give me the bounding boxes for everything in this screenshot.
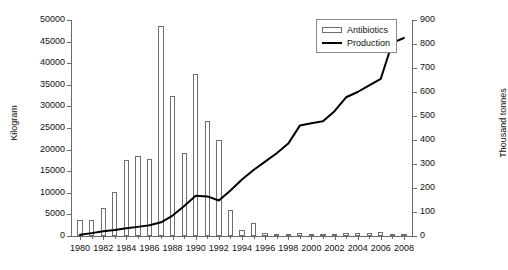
y-axis-right-tick-label: 0 (420, 231, 425, 240)
y-axis-left-tick-label: 10000 (40, 188, 65, 197)
x-axis-tick-label: 1998 (278, 243, 298, 253)
y-axis-right-tick (412, 188, 417, 189)
y-axis-right-tick (412, 140, 417, 141)
x-axis-tick-label: 1990 (186, 243, 206, 253)
y-axis-right-tick-label: 900 (420, 15, 435, 24)
x-axis-tick-label: 2008 (394, 243, 414, 253)
y-axis-right-tick (412, 236, 417, 237)
legend-item-production: Production (322, 36, 390, 49)
x-axis-tick-label: 1988 (163, 243, 183, 253)
x-axis-tick-label: 1992 (209, 243, 229, 253)
y-axis-right-tick (412, 164, 417, 165)
y-axis-right-tick (412, 44, 417, 45)
y-axis-left-tick-label: 30000 (40, 101, 65, 110)
y-axis-left-tick-label: 45000 (40, 37, 65, 46)
y-axis-right-tick-label: 500 (420, 111, 435, 120)
y-axis-right-tick (412, 68, 417, 69)
y-axis-right-tick-label: 600 (420, 87, 435, 96)
y-axis-right-tick-label: 700 (420, 63, 435, 72)
y-axis-left-tick-label: 5000 (45, 209, 65, 218)
production-line-path (80, 38, 404, 235)
y-axis-left-tick-label: 40000 (40, 58, 65, 67)
y-axis-right-tick-label: 100 (420, 207, 435, 216)
y-axis-right-tick (412, 212, 417, 213)
y-axis-right-tick-label: 800 (420, 39, 435, 48)
y-axis-right-tick (412, 116, 417, 117)
legend-bar-swatch-icon (322, 27, 342, 33)
x-axis-tick-label: 1994 (232, 243, 252, 253)
x-axis-tick-label: 2006 (371, 243, 391, 253)
x-axis-tick-label: 2000 (301, 243, 321, 253)
y-axis-left-tick-label: 35000 (40, 80, 65, 89)
legend-item-antibiotics: Antibiotics (322, 23, 390, 36)
x-axis-tick-label: 1980 (70, 243, 90, 253)
y-axis-left-title: Kilogram (9, 83, 19, 163)
legend-label-production: Production (347, 38, 390, 48)
y-axis-right-tick-label: 300 (420, 159, 435, 168)
x-axis-tick-label: 2004 (348, 243, 368, 253)
x-axis-tick-label: 2002 (325, 243, 345, 253)
x-axis-tick-label: 1982 (93, 243, 113, 253)
chart-legend: Antibiotics Production (316, 19, 397, 53)
y-axis-left-tick-label: 20000 (40, 145, 65, 154)
y-axis-right-tick (412, 92, 417, 93)
y-axis-right-spine (412, 20, 413, 237)
x-axis-tick-label: 1984 (116, 243, 136, 253)
y-axis-left-tick-label: 25000 (40, 123, 65, 132)
legend-line-swatch-icon (322, 42, 342, 44)
x-axis-tick-label: 1986 (139, 243, 159, 253)
y-axis-right-tick (412, 20, 417, 21)
legend-label-antibiotics: Antibiotics (347, 25, 388, 35)
y-axis-left-tick-label: 0 (60, 231, 65, 240)
y-axis-right-tick-label: 200 (420, 183, 435, 192)
y-axis-right-tick-label: 400 (420, 135, 435, 144)
x-axis-tick-label: 1996 (255, 243, 275, 253)
y-axis-left-tick-label: 15000 (40, 166, 65, 175)
y-axis-left-tick-label: 50000 (40, 15, 65, 24)
y-axis-right-title: Thousand tonnes (498, 68, 508, 178)
